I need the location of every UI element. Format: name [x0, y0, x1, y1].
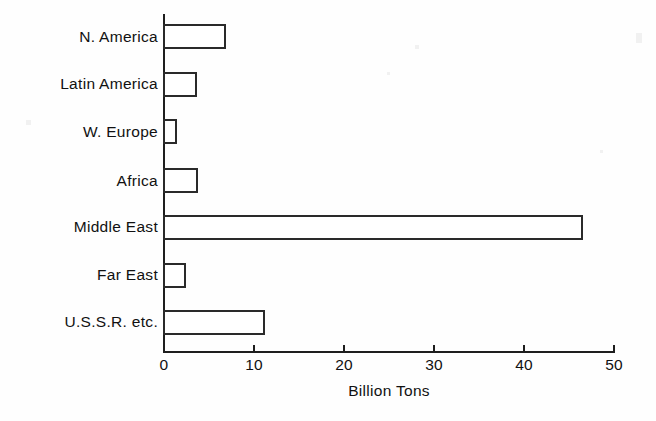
bar-n-america — [163, 24, 226, 49]
x-tick-label-20: 20 — [335, 357, 353, 373]
bar-ussr-etc — [163, 310, 265, 335]
x-tick-mark-0 — [163, 345, 165, 353]
bar-latin-america — [163, 72, 197, 97]
bar-w-europe — [163, 119, 177, 144]
category-label-w-europe: W. Europe — [0, 124, 158, 140]
category-label-ussr-etc: U.S.S.R. etc. — [0, 314, 158, 330]
x-tick-mark-40 — [523, 345, 525, 353]
category-label-africa: Africa — [0, 173, 158, 189]
x-tick-mark-50 — [613, 345, 615, 353]
category-label-middle-east: Middle East — [0, 219, 158, 235]
x-tick-mark-30 — [433, 345, 435, 353]
category-label-latin-america: Latin America — [0, 76, 158, 92]
x-tick-label-30: 30 — [425, 357, 443, 373]
x-tick-label-0: 0 — [160, 357, 169, 373]
x-tick-label-40: 40 — [515, 357, 533, 373]
plot-area — [163, 14, 615, 352]
x-tick-mark-10 — [253, 345, 255, 353]
category-label-n-america: N. America — [0, 29, 158, 45]
bar-chart-figure: N. America Latin America W. Europe Afric… — [0, 0, 656, 421]
category-label-far-east: Far East — [0, 267, 158, 283]
x-tick-label-10: 10 — [245, 357, 263, 373]
x-axis-title: Billion Tons — [163, 382, 615, 400]
x-tick-label-50: 50 — [605, 357, 623, 373]
scan-speckle — [636, 33, 642, 43]
x-axis-line — [163, 351, 615, 353]
x-tick-mark-20 — [343, 345, 345, 353]
bar-far-east — [163, 263, 186, 288]
bar-africa — [163, 168, 198, 193]
bar-middle-east — [163, 215, 583, 240]
